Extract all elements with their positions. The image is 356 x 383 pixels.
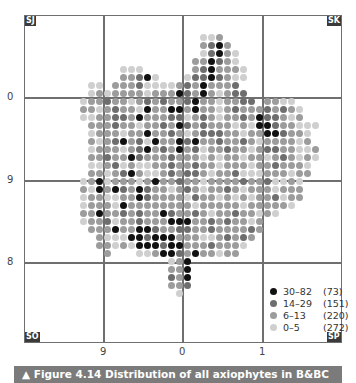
map-dot: [240, 66, 247, 73]
map-dot: [152, 82, 159, 89]
map-dot: [152, 138, 159, 145]
map-dot: [200, 210, 207, 217]
map-dot: [176, 186, 183, 193]
map-dot: [152, 178, 159, 185]
map-dot: [248, 114, 255, 121]
map-dot: [208, 218, 215, 225]
map-dot: [208, 58, 215, 65]
map-dot: [312, 122, 319, 129]
map-dot: [80, 202, 87, 209]
map-dot: [232, 234, 239, 241]
map-dot: [264, 202, 271, 209]
map-dot: [224, 194, 231, 201]
map-dot: [184, 106, 191, 113]
map-dot: [240, 130, 247, 137]
map-dot: [232, 138, 239, 145]
map-dot: [112, 210, 119, 217]
map-dot: [248, 226, 255, 233]
map-dot: [128, 114, 135, 121]
map-dot: [192, 90, 199, 97]
map-dot: [120, 242, 127, 249]
map-dot: [272, 138, 279, 145]
map-dot: [120, 122, 127, 129]
x-tick-label: 0: [179, 346, 185, 357]
map-dot: [208, 170, 215, 177]
map-dot: [120, 90, 127, 97]
map-dot: [200, 178, 207, 185]
map-dot: [288, 146, 295, 153]
map-dot: [120, 98, 127, 105]
map-dot: [144, 74, 151, 81]
map-dot: [192, 122, 199, 129]
map-dot: [200, 242, 207, 249]
map-dot: [168, 90, 175, 97]
map-dot: [168, 170, 175, 177]
map-dot: [120, 114, 127, 121]
map-dot: [216, 210, 223, 217]
map-dot: [96, 210, 103, 217]
map-dot: [232, 194, 239, 201]
map-dot: [208, 42, 215, 49]
map-dot: [128, 90, 135, 97]
map-dot: [208, 146, 215, 153]
map-dot: [184, 186, 191, 193]
map-dot: [184, 258, 191, 265]
map-dot: [312, 154, 319, 161]
map-dot: [272, 106, 279, 113]
map-dot: [192, 154, 199, 161]
map-dot: [96, 122, 103, 129]
map-dot: [232, 162, 239, 169]
map-dot: [168, 146, 175, 153]
map-dot: [168, 202, 175, 209]
map-dot: [184, 274, 191, 281]
map-dot: [128, 146, 135, 153]
map-dot: [192, 114, 199, 121]
map-dot: [216, 74, 223, 81]
map-dot: [112, 234, 119, 241]
map-dot: [216, 170, 223, 177]
map-dot: [288, 154, 295, 161]
map-dot: [272, 210, 279, 217]
map-dot: [128, 122, 135, 129]
map-dot: [216, 34, 223, 41]
map-dot: [176, 154, 183, 161]
map-dot: [240, 138, 247, 145]
map-dot: [88, 98, 95, 105]
map-dot: [104, 250, 111, 257]
map-dot: [208, 114, 215, 121]
map-dot: [264, 138, 271, 145]
map-dot: [104, 202, 111, 209]
map-dot: [224, 90, 231, 97]
map-dot: [168, 154, 175, 161]
map-dot: [248, 210, 255, 217]
map-dot: [232, 90, 239, 97]
map-dot: [288, 178, 295, 185]
map-dot: [112, 162, 119, 169]
map-dot: [112, 138, 119, 145]
map-dot: [248, 178, 255, 185]
map-dot: [136, 66, 143, 73]
map-dot: [88, 170, 95, 177]
y-tick-label: 9: [7, 174, 13, 185]
map-dot: [208, 90, 215, 97]
map-dot: [168, 194, 175, 201]
map-dot: [296, 146, 303, 153]
map-dot: [144, 82, 151, 89]
map-dot: [112, 202, 119, 209]
map-dot: [88, 130, 95, 137]
map-dot: [184, 194, 191, 201]
map-dot: [136, 170, 143, 177]
map-dot: [96, 146, 103, 153]
map-dot: [120, 202, 127, 209]
map-dot: [240, 242, 247, 249]
map-dot: [288, 106, 295, 113]
map-dot: [224, 106, 231, 113]
map-dot: [136, 98, 143, 105]
map-dot: [288, 202, 295, 209]
map-dot: [88, 178, 95, 185]
map-dot: [128, 162, 135, 169]
map-dot: [80, 186, 87, 193]
map-dot: [192, 74, 199, 81]
map-dot: [168, 114, 175, 121]
map-dot: [128, 74, 135, 81]
